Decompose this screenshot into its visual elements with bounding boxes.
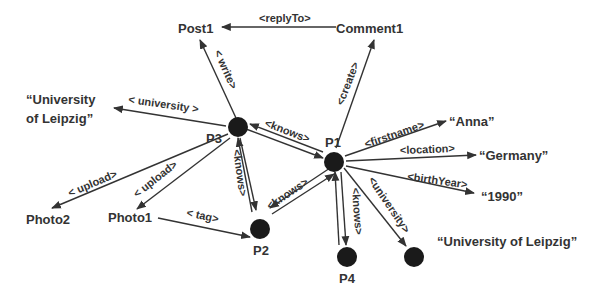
label-p4: P4 [339, 271, 356, 286]
node-p1 [324, 152, 344, 172]
label-university-right: “University of Leipzig” [437, 234, 577, 249]
edge-label-tag: < tag> [186, 206, 220, 224]
edge-label-write: < write> [212, 48, 240, 91]
label-germany: “Germany” [479, 148, 548, 163]
edge-label-replyto: <replyTo> [259, 12, 311, 24]
edge-label-knows-p1-p4: <knows> [350, 187, 365, 235]
label-photo1: Photo1 [108, 210, 152, 225]
edge-location [346, 155, 476, 161]
label-p3: P3 [206, 131, 222, 146]
edge-label-knows-p3-p1: <knows> [263, 117, 311, 145]
node-p2 [250, 219, 270, 239]
rdf-graph-diagram: Post1 Comment1 P3 P1 P2 P4 “University o… [0, 0, 607, 301]
label-university-left-1: “University [26, 92, 96, 107]
label-1990: “1990” [481, 189, 523, 204]
label-post1: Post1 [178, 21, 213, 36]
edge-label-location: <location> [400, 142, 455, 156]
edge-label-knows-p3-p2: <knows> [231, 149, 249, 197]
label-anna: “Anna” [449, 114, 495, 129]
label-photo2: Photo2 [26, 212, 70, 227]
label-comment1: Comment1 [336, 21, 403, 36]
label-university-left-2: of Leipzig” [26, 111, 93, 126]
node-university-p1 [404, 247, 424, 267]
edge-label-create: <create> [334, 60, 361, 107]
edge-knows-p1-p4-b [335, 172, 339, 245]
edge-knows-p1-p4-a [341, 172, 346, 245]
label-p1: P1 [325, 135, 341, 150]
edge-label-birthyear: <birthYear> [407, 170, 469, 190]
node-p4 [337, 247, 357, 267]
label-p2: P2 [253, 243, 269, 258]
node-p3 [228, 117, 248, 137]
